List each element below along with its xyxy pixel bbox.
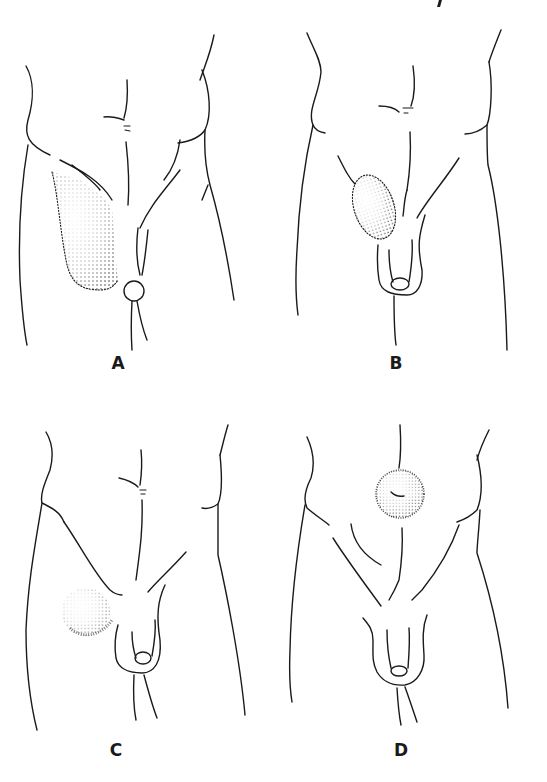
panel-a-label: A (103, 353, 133, 373)
panel-d: D (277, 400, 547, 782)
panel-b-drawing (277, 0, 547, 360)
panel-a-drawing (0, 0, 270, 360)
panel-d-drawing (277, 400, 547, 760)
panel-b-label: B (381, 353, 411, 373)
panel-c: C (0, 400, 270, 782)
panel-c-drawing (0, 400, 270, 760)
panel-d-label: D (386, 740, 416, 760)
panel-b: B (277, 0, 547, 390)
panel-c-label: C (101, 740, 131, 760)
panel-a: A (0, 0, 270, 390)
